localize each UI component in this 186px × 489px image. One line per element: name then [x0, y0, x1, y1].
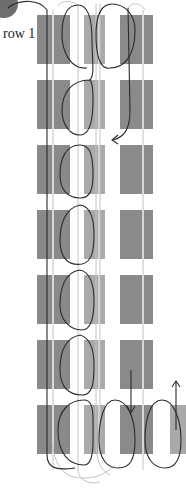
block-r3-c2: [84, 145, 105, 194]
start-circle: [0, 0, 18, 18]
block-r2-c3: [120, 80, 153, 129]
weaving-diagram: row 1: [0, 0, 186, 489]
block-r4-c3: [120, 210, 153, 259]
dark-threads: [8, 1, 181, 469]
block-r3-c3: [120, 145, 153, 194]
block-r6-c3: [120, 340, 153, 389]
row-label: row 1: [3, 26, 35, 41]
light-thread-4: [128, 4, 145, 10]
block-r5-c3: [120, 275, 153, 324]
block-r7-c3: [120, 405, 153, 454]
block-r2-c2: [84, 80, 105, 129]
block-r1-c2: [84, 15, 105, 64]
block-r7-c2: [84, 405, 105, 454]
block-r1-c3: [120, 15, 153, 64]
block-r7-c4: [170, 405, 186, 454]
